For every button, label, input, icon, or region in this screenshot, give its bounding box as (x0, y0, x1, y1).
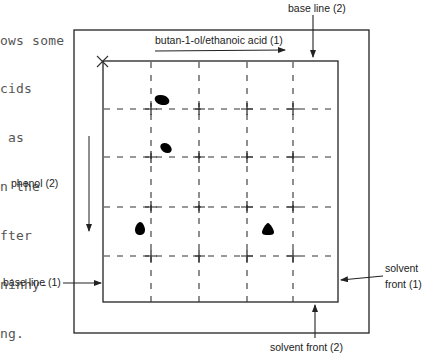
solvent-1-direction-arrow (155, 50, 285, 51)
solvent-front-2-label: solvent front (2) (270, 340, 343, 354)
spot-1 (154, 93, 171, 106)
outer-paper-border (74, 30, 369, 333)
solvent-2-label: phenol (2) (11, 176, 58, 190)
solvent-1-label: butan-1-ol/ethanoic acid (1) (155, 33, 283, 47)
grid-intersection-crosses (145, 103, 299, 262)
solvent-front-1-label-line1: solvent (385, 261, 418, 275)
base-line-2-label: base line (2) (288, 1, 346, 15)
spot-4 (262, 223, 274, 235)
inner-run-area-border (103, 61, 338, 302)
solvent-front-1-pointer (341, 276, 383, 280)
solvent-front-1-label-line2: front (1) (385, 277, 422, 291)
chromatogram-diagram (0, 0, 425, 355)
grid-vertical-lines (151, 62, 293, 302)
spot-2 (158, 141, 173, 155)
amino-acid-spots (135, 93, 274, 235)
spot-3 (135, 222, 145, 235)
base-line-1-label: base line (1) (3, 275, 61, 289)
